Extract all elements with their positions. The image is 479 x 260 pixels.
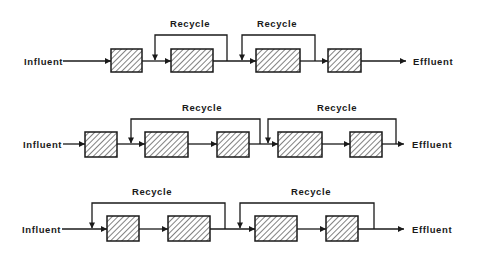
arrowhead-down-icon — [237, 223, 243, 229]
process-row-2: InfluentEffluentRecycleRecycle — [23, 102, 452, 157]
arrowhead-down-icon — [265, 138, 271, 144]
arrowhead-right-icon — [105, 58, 111, 64]
reactor-tank-3 — [256, 49, 300, 72]
recycle-label: Recycle — [170, 18, 210, 29]
arrowhead-right-icon — [272, 141, 278, 147]
arrowhead-right-icon — [79, 141, 85, 147]
reactor-tank-1 — [107, 216, 139, 241]
arrowhead-right-icon — [398, 226, 404, 232]
reactor-tank-3 — [217, 132, 249, 157]
effluent-label: Effluent — [412, 139, 452, 150]
reactor-tank-2 — [168, 216, 210, 241]
effluent-label: Effluent — [413, 56, 453, 67]
arrowhead-right-icon — [344, 141, 350, 147]
process-row-1: InfluentEffluentRecycleRecycle — [24, 18, 453, 72]
reactor-tank-1 — [85, 132, 117, 157]
reactor-tank-4 — [278, 132, 322, 157]
arrowhead-right-icon — [162, 226, 168, 232]
reactor-tank-5 — [350, 132, 382, 157]
recycle-label: Recycle — [257, 18, 297, 29]
reactor-tank-4 — [328, 49, 361, 72]
recycle-label: Recycle — [317, 102, 357, 113]
reactor-tank-1 — [111, 49, 142, 72]
arrowhead-right-icon — [398, 141, 404, 147]
arrowhead-right-icon — [320, 226, 326, 232]
recycle-label: Recycle — [291, 186, 331, 197]
reactor-tank-2 — [171, 49, 213, 72]
influent-label: Influent — [24, 56, 63, 67]
reactor-recycle-diagram: InfluentEffluentRecycleRecycleInfluentEf… — [0, 0, 479, 260]
reactor-tank-3 — [255, 216, 297, 241]
arrowhead-down-icon — [239, 55, 245, 61]
arrowhead-right-icon — [322, 58, 328, 64]
effluent-label: Effluent — [412, 224, 452, 235]
arrowhead-right-icon — [400, 58, 406, 64]
arrowhead-right-icon — [165, 58, 171, 64]
reactor-tank-4 — [326, 216, 358, 241]
process-row-3: InfluentEffluentRecycleRecycle — [22, 186, 452, 241]
arrowhead-right-icon — [211, 141, 217, 147]
arrowhead-down-icon — [128, 138, 134, 144]
arrowhead-right-icon — [249, 226, 255, 232]
arrowhead-right-icon — [101, 226, 107, 232]
arrowhead-right-icon — [250, 58, 256, 64]
recycle-label: Recycle — [132, 186, 172, 197]
arrowhead-right-icon — [139, 141, 145, 147]
reactor-tank-2 — [145, 132, 188, 157]
arrowhead-down-icon — [89, 223, 95, 229]
recycle-label: Recycle — [182, 102, 222, 113]
arrowhead-down-icon — [152, 55, 158, 61]
influent-label: Influent — [23, 139, 62, 150]
influent-label: Influent — [22, 224, 61, 235]
